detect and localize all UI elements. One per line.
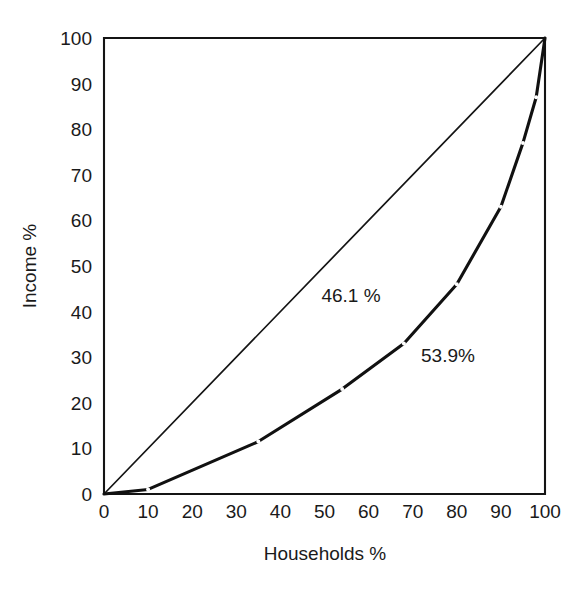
y-tick-label: 80 — [71, 119, 92, 140]
x-tick-label: 60 — [358, 501, 379, 522]
lorenz-data-point — [340, 387, 344, 391]
x-axis-tick-labels: 0102030405060708090100 — [99, 501, 561, 522]
x-axis-title: Households % — [264, 543, 387, 564]
line-of-equality — [104, 38, 545, 494]
x-tick-label: 10 — [138, 501, 159, 522]
chart-canvas: 0102030405060708090100 01020304050607080… — [0, 0, 587, 591]
lorenz-data-point — [534, 95, 538, 99]
y-tick-label: 10 — [71, 438, 92, 459]
lorenz-data-point — [256, 440, 260, 444]
y-axis-tick-labels: 0102030405060708090100 — [60, 28, 92, 505]
y-tick-label: 30 — [71, 347, 92, 368]
x-tick-label: 40 — [270, 501, 291, 522]
annotation-area-below-curve: 53.9% — [421, 345, 475, 366]
y-tick-label: 0 — [81, 484, 92, 505]
y-tick-label: 40 — [71, 302, 92, 323]
y-tick-label: 70 — [71, 165, 92, 186]
annotation-area-above-curve: 46.1 % — [321, 285, 380, 306]
lorenz-data-point — [455, 282, 459, 286]
x-tick-label: 0 — [99, 501, 110, 522]
x-tick-label: 70 — [402, 501, 423, 522]
lorenz-curve-figure: 0102030405060708090100 01020304050607080… — [0, 0, 587, 591]
y-tick-label: 100 — [60, 28, 92, 49]
lorenz-data-point — [499, 205, 503, 209]
x-tick-label: 50 — [314, 501, 335, 522]
lorenz-data-point — [521, 141, 525, 145]
x-tick-label: 100 — [529, 501, 561, 522]
y-tick-label: 20 — [71, 393, 92, 414]
y-tick-label: 90 — [71, 74, 92, 95]
x-tick-label: 20 — [182, 501, 203, 522]
equality-line-group — [104, 38, 545, 494]
y-tick-label: 50 — [71, 256, 92, 277]
lorenz-data-point — [146, 487, 150, 491]
y-tick-label: 60 — [71, 210, 92, 231]
x-tick-label: 30 — [226, 501, 247, 522]
lorenz-data-point — [402, 342, 406, 346]
y-axis-title: Income % — [19, 224, 40, 309]
x-tick-label: 80 — [446, 501, 467, 522]
x-tick-label: 90 — [490, 501, 511, 522]
